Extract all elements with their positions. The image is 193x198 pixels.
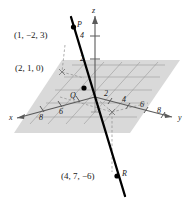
point-q-label: Q xyxy=(70,92,76,100)
point-q-coordinates-label: (2, 1, 0) xyxy=(15,64,44,73)
y-axis-label: y xyxy=(178,114,182,122)
y-tick-label-4: 4 xyxy=(122,96,126,104)
y-tick-label-2: 2 xyxy=(104,90,108,98)
point-marker-q xyxy=(81,85,86,90)
point-p-coordinates-label: (1, −2, 3) xyxy=(14,31,48,40)
point-marker-p xyxy=(71,24,76,29)
y-tick-label-8: 8 xyxy=(157,107,161,115)
y-tick-label-6: 6 xyxy=(140,101,144,109)
point-p-label: P xyxy=(77,21,82,29)
z-tick-label-4: 4 xyxy=(80,32,84,40)
point-r-coordinates-label: (4, 7, −6) xyxy=(61,172,95,181)
point-r-label: R xyxy=(122,170,127,178)
z-tick-label-2: 2 xyxy=(80,55,84,63)
figure-3d-line-through-points: (1, −2, 3) P (2, 1, 0) Q (4, 7, −6) R x … xyxy=(0,0,193,198)
z-axis-label: z xyxy=(92,7,95,15)
x-tick-label-6: 6 xyxy=(59,108,63,116)
x-axis-label: x xyxy=(9,114,13,122)
point-marker-r xyxy=(114,173,119,178)
x-tick-label-8: 8 xyxy=(39,114,43,122)
